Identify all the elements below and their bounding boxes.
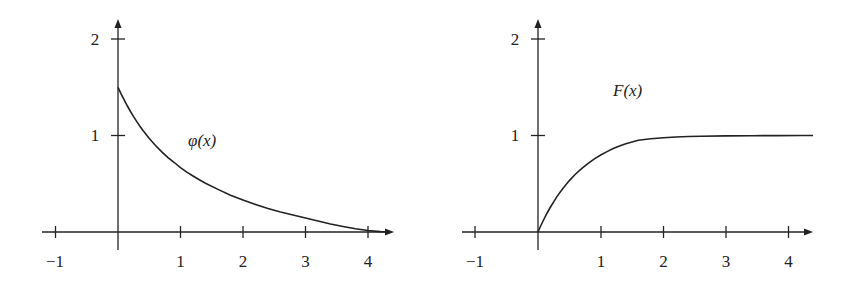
x-tick-label: −1 [46,252,64,271]
y-tick-label: 2 [91,30,100,49]
cdf-function-label: F(x) [612,81,643,100]
x-tick-label: 3 [301,252,310,271]
x-tick-label: 1 [597,252,606,271]
x-tick-label: 4 [784,252,793,271]
x-tick-label: 2 [659,252,668,271]
cdf-plot: −1 1 2 3 4 1 2 F(x) [424,0,848,288]
y-axis-arrow-icon [535,19,542,28]
y-axis-arrow-icon [115,19,122,28]
x-tick-label: 3 [722,252,731,271]
x-tick-label: 2 [239,252,248,271]
x-axis-arrow-icon [804,229,813,236]
y-tick-label: 1 [91,126,100,145]
x-tick-label: 1 [176,252,185,271]
density-plot: −1 1 2 3 4 1 2 φ(x) [0,0,424,288]
y-tick-label: 2 [511,30,520,49]
x-tick-label: 4 [364,252,373,271]
density-plot-svg: −1 1 2 3 4 1 2 φ(x) [0,0,424,288]
y-tick-label: 1 [511,126,520,145]
density-curve [118,87,390,232]
cdf-plot-svg: −1 1 2 3 4 1 2 F(x) [424,0,848,288]
cdf-curve [538,136,813,233]
density-function-label: φ(x) [188,131,217,150]
x-tick-label: −1 [466,252,484,271]
